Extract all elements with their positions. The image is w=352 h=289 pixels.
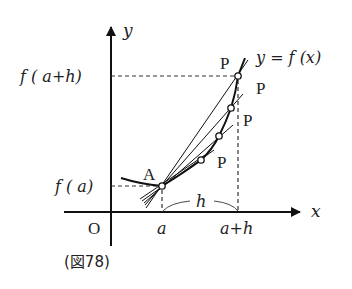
f-a-plus-h-label: f ( a+h) <box>19 67 82 86</box>
point-label-A: A <box>143 165 156 184</box>
h-interval-arc-left <box>163 201 190 211</box>
tick-label-a-plus-h: a+h <box>220 219 253 238</box>
point-P-3 <box>216 133 222 139</box>
y-axis-label: y <box>122 20 133 40</box>
point-label-P-3: P <box>243 111 252 130</box>
f-a-label: f ( a) <box>54 177 93 196</box>
tick-label-a: a <box>157 219 167 238</box>
x-axis-label: x <box>311 201 321 221</box>
figure-caption: (図78) <box>64 253 110 271</box>
point-label-P-4: P <box>217 153 226 172</box>
point-P-4 <box>198 157 204 163</box>
point-A <box>159 183 165 189</box>
derivative-secant-diagram: y x O f ( a+h) f ( a) a a+h h y = f (x) … <box>0 0 352 289</box>
point-P-1 <box>235 73 241 79</box>
origin-label: O <box>88 219 100 238</box>
h-interval-arc-right <box>214 201 238 211</box>
point-label-P-1: P <box>220 54 229 73</box>
curve-label: y = f (x) <box>255 48 321 67</box>
point-P-2 <box>228 105 234 111</box>
point-label-P-2: P <box>256 79 265 98</box>
interval-label-h: h <box>196 192 206 211</box>
